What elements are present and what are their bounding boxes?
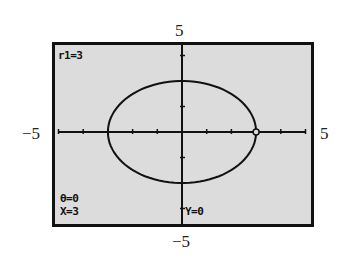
y-max-label: 5 [175, 22, 184, 39]
trace-cursor [253, 129, 259, 135]
x-max-label: 5 [320, 125, 329, 142]
equation-label: r1=3 [58, 50, 83, 61]
x-min-label: −5 [22, 125, 40, 142]
y-min-label: −5 [172, 233, 190, 250]
x-readout: X=3 [60, 206, 78, 217]
graph-plot [55, 45, 311, 224]
y-readout: Y=0 [185, 206, 203, 217]
theta-readout: θ=0 [60, 193, 78, 204]
calculator-screen: r1=3 θ=0 X=3 Y=0 [52, 42, 314, 227]
